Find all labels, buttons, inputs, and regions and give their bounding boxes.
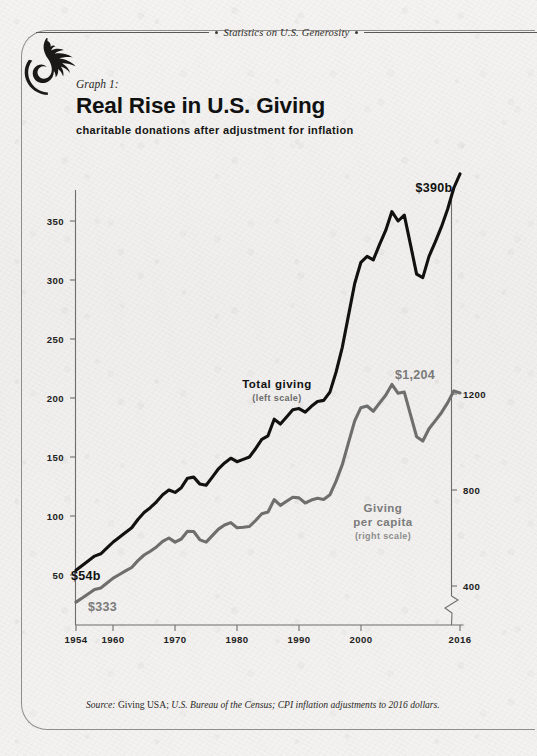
source-italic: U.S. Bureau of the Census; CPI inflation… <box>171 699 440 710</box>
running-head-rule-left <box>36 32 209 33</box>
page-subtitle: charitable donations after adjustment fo… <box>76 124 354 136</box>
source-note: Source: Giving USA; U.S. Bureau of the C… <box>86 699 440 710</box>
graph-number-label: Graph 1: <box>76 78 119 90</box>
flourish-ornament-icon <box>14 38 84 114</box>
page-title: Real Rise in U.S. Giving <box>76 93 325 119</box>
source-label: Source: <box>86 699 115 710</box>
running-head-dot-right <box>355 31 358 34</box>
source-plain: Giving USA; <box>118 699 169 710</box>
running-head-text: Statistics on U.S. Generosity <box>224 27 350 38</box>
running-head-rule-right <box>364 32 537 33</box>
running-head-dot-left <box>215 31 218 34</box>
